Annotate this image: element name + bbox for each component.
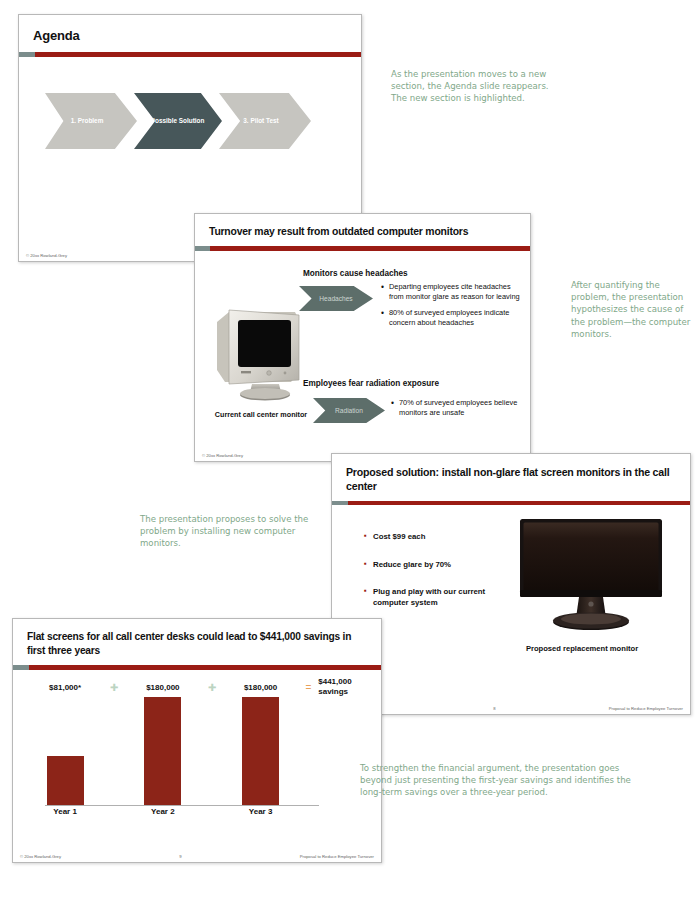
savings-bar-chart: $81,000* ✚ $180,000 ✚ $180,000 = $441,00… bbox=[13, 679, 381, 829]
bar-year1 bbox=[47, 756, 84, 805]
turnover-section2-bullets: 70% of surveyed employees believe monito… bbox=[391, 398, 523, 424]
solution-footer: © 20xx Rowland-Grey 8 Proposal to Reduce… bbox=[332, 706, 690, 711]
footer-copyright: © 20xx Rowland-Grey bbox=[202, 453, 243, 458]
bar-gap bbox=[299, 697, 319, 805]
solution-accent-bar bbox=[332, 501, 690, 506]
agenda-step-label: 2. Possible Solution bbox=[144, 117, 205, 126]
annotation-solution: The presentation proposes to solve the p… bbox=[140, 513, 320, 550]
turnover-section1-heading: Monitors cause headaches bbox=[303, 269, 408, 278]
annotation-chart: To strengthen the financial argument, th… bbox=[360, 762, 645, 799]
agenda-step-possible-solution[interactable]: 2. Possible Solution bbox=[134, 93, 222, 149]
agenda-title: Agenda bbox=[19, 15, 361, 43]
solution-bullets: Cost $99 each Reduce glare by 70% Plug a… bbox=[364, 532, 494, 625]
chart-footer: © 20xx Rowland-Grey 9 Proposal to Reduce… bbox=[13, 854, 381, 859]
turnover-accent-bar bbox=[195, 246, 530, 251]
slide-chart[interactable]: Flat screens for all call center desks c… bbox=[12, 618, 382, 863]
bullet-item: Reduce glare by 70% bbox=[364, 560, 494, 571]
annotation-turnover: After quantifying the problem, the prese… bbox=[571, 279, 695, 340]
accent-line bbox=[35, 52, 361, 57]
footer-page-number: 8 bbox=[380, 706, 609, 711]
chart-accent-bar bbox=[13, 665, 381, 670]
agenda-step-label: 3. Pilot Test bbox=[243, 117, 278, 126]
bar-cell-year2 bbox=[125, 697, 201, 805]
turnover-section1-bullets: Departing employees cite headaches from … bbox=[381, 282, 521, 334]
bar-value-label-year3: $180,000 bbox=[222, 683, 298, 692]
crt-monitor-caption: Current call center monitor bbox=[203, 410, 319, 419]
turnover-title: Turnover may result from outdated comput… bbox=[195, 214, 530, 237]
bullet-item: Plug and play with our current computer … bbox=[364, 587, 494, 608]
bar-cell-year3 bbox=[222, 697, 298, 805]
bar-gap bbox=[201, 697, 223, 805]
bar-value-label-year2: $180,000 bbox=[125, 683, 201, 692]
accent-line bbox=[210, 246, 530, 251]
plus-icon: ✚ bbox=[103, 682, 125, 693]
chart-total-label: $441,000 savings bbox=[318, 677, 373, 698]
accent-square bbox=[13, 665, 29, 670]
category-label-year1: Year 1 bbox=[27, 807, 103, 821]
chart-slide-title: Flat screens for all call center desks c… bbox=[13, 619, 381, 658]
bar-year3 bbox=[242, 697, 279, 805]
footer-deck-title: Proposal to Reduce Employee Turnover bbox=[300, 854, 374, 859]
bar-value-label-year1: $81,000* bbox=[27, 683, 103, 692]
bar-year2 bbox=[144, 697, 181, 805]
footer-deck-title: Proposal to Reduce Employee Turnover bbox=[609, 706, 683, 711]
footer-page-number: 9 bbox=[61, 854, 300, 859]
flat-screen-caption: Proposed replacement monitor bbox=[482, 644, 682, 653]
arrow-tag-label: Headaches bbox=[319, 295, 352, 302]
agenda-step-problem[interactable]: 1. Problem bbox=[45, 93, 137, 149]
crt-monitor-image bbox=[207, 292, 315, 404]
annotation-agenda: As the presentation moves to a new secti… bbox=[391, 68, 566, 105]
accent-line bbox=[348, 501, 690, 506]
agenda-step-pilot-test[interactable]: 3. Pilot Test bbox=[219, 93, 311, 149]
solution-title: Proposed solution: install non-glare fla… bbox=[332, 454, 690, 494]
radiation-arrow-tag: Radiation bbox=[313, 398, 385, 423]
slide-collage-page: Agenda 1. Problem 2. Possible Solution 3… bbox=[0, 0, 699, 897]
bullet-item: 80% of surveyed employees indicate conce… bbox=[381, 308, 521, 328]
category-label-year2: Year 2 bbox=[125, 807, 201, 821]
chart-bars bbox=[27, 697, 373, 805]
plus-icon: ✚ bbox=[201, 682, 223, 693]
bar-gap bbox=[103, 697, 125, 805]
accent-square bbox=[195, 246, 210, 251]
footer-copyright: © 20xx Rowland-Grey bbox=[20, 854, 61, 859]
chart-category-labels: Year 1 Year 2 Year 3 bbox=[27, 807, 373, 821]
chart-value-label-row: $81,000* ✚ $180,000 ✚ $180,000 = $441,00… bbox=[27, 679, 373, 695]
arrow-tag-label: Radiation bbox=[335, 407, 363, 414]
accent-line bbox=[29, 665, 381, 670]
slide-solution[interactable]: Proposed solution: install non-glare fla… bbox=[331, 453, 691, 715]
agenda-step-label: 1. Problem bbox=[71, 117, 104, 126]
accent-square bbox=[332, 501, 348, 506]
bullet-item: Cost $99 each bbox=[364, 532, 494, 543]
bar-cell-year1 bbox=[27, 697, 103, 805]
agenda-accent-bar bbox=[19, 52, 361, 57]
flat-screen-monitor-image bbox=[517, 516, 665, 636]
slide-turnover[interactable]: Turnover may result from outdated comput… bbox=[194, 213, 531, 462]
chart-x-axis bbox=[45, 805, 319, 806]
agenda-chevron-row: 1. Problem 2. Possible Solution 3. Pilot… bbox=[45, 93, 308, 149]
turnover-section2-heading: Employees fear radiation exposure bbox=[303, 379, 439, 388]
equals-icon: = bbox=[299, 682, 319, 693]
accent-square bbox=[19, 52, 35, 57]
bullet-item: Departing employees cite headaches from … bbox=[381, 282, 521, 302]
category-label-year3: Year 3 bbox=[222, 807, 298, 821]
bullet-item: 70% of surveyed employees believe monito… bbox=[391, 398, 523, 418]
footer-copyright: © 20xx Rowland-Grey bbox=[26, 253, 67, 258]
